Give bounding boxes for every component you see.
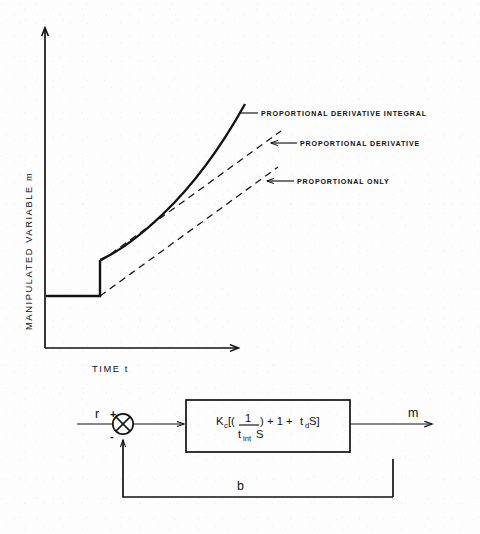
figure-canvas: PROPORTIONAL DERIVATIVE INTEGRAL PROPORT… <box>0 0 480 534</box>
figure-root: PROPORTIONAL DERIVATIVE INTEGRAL PROPORT… <box>0 0 480 534</box>
controller-transfer-function: K c [( 1 t int S ) + 1 + t d S] <box>216 412 320 443</box>
formula-close-paren: ) <box>260 415 264 427</box>
formula-derivative-base: t <box>300 415 304 427</box>
formula-plus-one: + 1 + <box>267 415 293 427</box>
curve-pdi-step <box>46 260 100 296</box>
formula-derivative-tail: S] <box>309 415 320 427</box>
callout-label-proportional-only: PROPORTIONAL ONLY <box>297 178 390 186</box>
plot-axes <box>45 28 238 348</box>
x-axis-label: TIME t <box>92 364 129 374</box>
feedback-line <box>123 440 393 497</box>
formula-denominator-tail: S <box>256 428 263 440</box>
formula-denominator-base: t <box>238 428 242 440</box>
input-label-r: r <box>95 407 99 421</box>
y-axis-label: MANIPULATED VARIABLE m <box>24 172 34 330</box>
feedback-label-b: b <box>237 479 244 493</box>
formula-gain: K <box>216 415 224 427</box>
callout-label-proportional-derivative: PROPORTIONAL DERIVATIVE <box>300 140 420 148</box>
output-label-m: m <box>408 406 418 420</box>
curve-pdi-ramp <box>100 104 245 260</box>
callout-label-pdi: PROPORTIONAL DERIVATIVE INTEGRAL <box>261 110 427 118</box>
block-diagram: r + - K c [( 1 t int <box>77 400 432 497</box>
minus-sign-label: - <box>110 430 114 442</box>
formula-denominator-sub: int <box>243 434 252 443</box>
formula-numerator: 1 <box>245 412 251 424</box>
summing-junction <box>113 414 133 434</box>
formula-open-bracket: [( <box>228 415 235 427</box>
curve-proportional-derivative <box>101 131 281 261</box>
plot-curves <box>46 104 281 296</box>
